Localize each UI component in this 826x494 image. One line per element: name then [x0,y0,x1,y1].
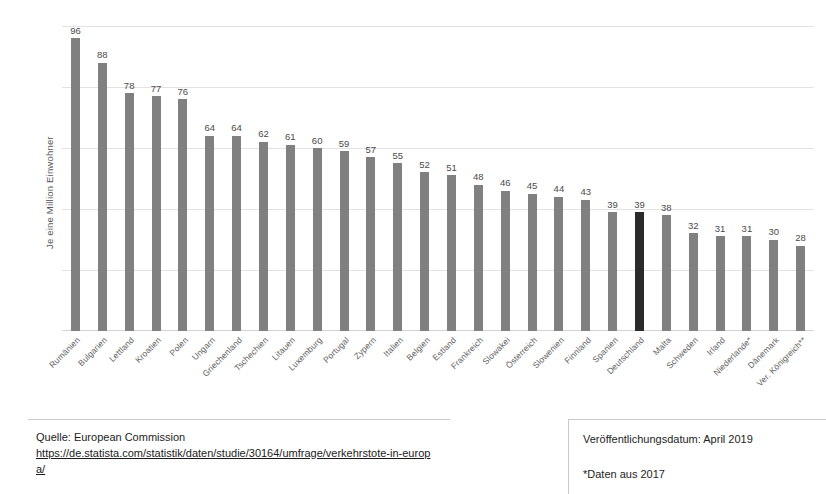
x-tick: Polen [169,333,196,409]
bar-item[interactable]: 28 [787,26,814,331]
x-tick-label: Malta [651,335,673,357]
bar-rect[interactable] [528,194,537,331]
bar-item[interactable]: 88 [89,26,116,331]
bar-item[interactable]: 32 [680,26,707,331]
bar-rect[interactable] [393,163,402,331]
bar-item[interactable]: 64 [196,26,223,331]
bar-value-label: 43 [580,187,591,197]
bar-rect[interactable] [662,215,671,331]
x-tick: Litauen [277,333,304,409]
bar-item[interactable]: 64 [223,26,250,331]
bar-chart: Je eine Million Einwohner 96887877766464… [0,0,826,410]
publication-date: Veröffentlichungsdatum: April 2019 [583,432,826,447]
bar-item[interactable]: 60 [304,26,331,331]
source-label: Quelle: European Commission [36,430,450,446]
bar-rect[interactable] [796,246,805,331]
bar-rect[interactable] [581,200,590,331]
bar-rect[interactable] [125,93,134,331]
bar-rect[interactable] [689,233,698,331]
x-tick: Portugal [331,333,358,409]
bar-item[interactable]: 39 [626,26,653,331]
bar-item[interactable]: 62 [250,26,277,331]
bar-item[interactable]: 61 [277,26,304,331]
bar-rect[interactable] [71,38,80,331]
bar-item[interactable]: 48 [465,26,492,331]
bar-value-label: 39 [634,200,645,210]
x-tick: Tschechien [250,333,277,409]
source-url-link[interactable]: https://de.statista.com/statistik/daten/… [36,446,436,478]
bar-value-label: 77 [151,84,162,94]
bar-item[interactable]: 59 [331,26,358,331]
bar-value-label: 46 [500,178,511,188]
metadata-box: Veröffentlichungsdatum: April 2019 *Date… [568,419,826,494]
x-tick: Rumänien [62,333,89,409]
bar-value-label: 48 [473,172,484,182]
source-box: Quelle: European Commission https://de.s… [28,419,450,494]
bar-value-label: 32 [688,221,699,231]
bar-item[interactable]: 31 [733,26,760,331]
bar-rect[interactable] [152,96,161,331]
bar-value-label: 31 [715,224,726,234]
x-tick: Frankreich [465,333,492,409]
x-tick: Italien [384,333,411,409]
bar-item[interactable]: 78 [116,26,143,331]
bar-value-label: 38 [661,203,672,213]
data-year-note: *Daten aus 2017 [583,467,826,482]
bar-item[interactable]: 30 [760,26,787,331]
bar-rect[interactable] [205,136,214,331]
x-tick-label: Polen [167,335,190,358]
bar-value-label: 52 [419,160,430,170]
bar-rect[interactable] [501,191,510,331]
bar-item[interactable]: 31 [707,26,734,331]
bar-value-label: 44 [554,184,565,194]
bar-item[interactable]: 43 [572,26,599,331]
y-axis-label: Je eine Million Einwohner [44,108,62,278]
bar-item[interactable]: 38 [653,26,680,331]
x-tick: Kroatien [143,333,170,409]
bar-value-label: 39 [607,200,618,210]
x-tick: Lettland [116,333,143,409]
x-tick: Schweden [680,333,707,409]
bar-item[interactable]: 57 [357,26,384,331]
bar-item[interactable]: 55 [384,26,411,331]
bar-rect[interactable] [554,197,563,331]
bar-item[interactable]: 44 [545,26,572,331]
bar-item[interactable]: 96 [62,26,89,331]
bar-rect[interactable] [286,145,295,331]
bar-rect[interactable] [716,236,725,331]
bar-rect[interactable] [98,63,107,331]
bar-rect[interactable] [340,151,349,331]
bar-rect[interactable] [178,99,187,331]
bar-rect[interactable] [769,240,778,332]
bar-value-label: 62 [258,129,269,139]
x-tick: Belgien [411,333,438,409]
x-tick-label: Irland [705,335,728,358]
bar-rect[interactable] [232,136,241,331]
bar-item[interactable]: 76 [169,26,196,331]
bar-rect[interactable] [742,236,751,331]
bar-rect[interactable] [608,212,617,331]
bar-rect[interactable] [420,172,429,331]
bar-value-label: 78 [124,81,135,91]
bar-rect[interactable] [313,148,322,331]
x-tick: Deutschland [626,333,653,409]
x-tick: Estland [438,333,465,409]
bar-item[interactable]: 45 [519,26,546,331]
bar-rect[interactable] [635,212,644,331]
x-tick: Zypern [357,333,384,409]
bar-item[interactable]: 39 [599,26,626,331]
bar-item[interactable]: 51 [438,26,465,331]
bar-item[interactable]: 52 [411,26,438,331]
x-tick-label: Rumänien [47,335,82,370]
x-tick: Finnland [572,333,599,409]
bar-rect[interactable] [366,157,375,331]
bar-item[interactable]: 77 [143,26,170,331]
bar-rect[interactable] [259,142,268,331]
x-tick: Ver. Königreich** [787,333,814,409]
x-tick: Bulgarien [89,333,116,409]
bar-rect[interactable] [447,175,456,331]
x-tick: Österreich [519,333,546,409]
bar-item[interactable]: 46 [492,26,519,331]
bar-rect[interactable] [474,185,483,331]
bar-value-label: 55 [392,151,403,161]
